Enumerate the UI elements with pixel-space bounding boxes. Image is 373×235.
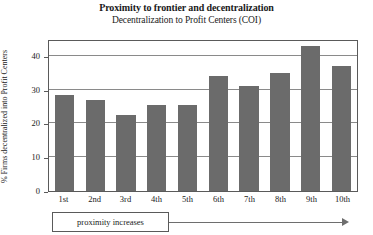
bar-slot [295, 41, 326, 191]
y-tick-mark [44, 57, 48, 58]
proximity-annotation-box: proximity increases [52, 212, 169, 232]
bar [270, 73, 289, 191]
x-axis-labels: 1st2nd3rd4th5th6th7th8th9th10th [48, 194, 358, 204]
bar-slot [172, 41, 203, 191]
x-tick-label: 2nd [79, 194, 110, 204]
x-tick-label: 5th [172, 194, 203, 204]
bar-chart: Proximity to frontier and decentralizati… [0, 0, 373, 235]
bar-series [49, 41, 357, 191]
y-tick-mark [44, 124, 48, 125]
bar [178, 105, 197, 191]
x-tick-label: 9th [296, 194, 327, 204]
y-tick-label: 0 [20, 186, 40, 196]
y-tick-label: 30 [20, 85, 40, 95]
x-tick-label: 6th [203, 194, 234, 204]
x-tick-label: 1st [48, 194, 79, 204]
x-tick-label: 8th [265, 194, 296, 204]
bar [86, 100, 105, 191]
x-tick-label: 3rd [110, 194, 141, 204]
proximity-annotation-label: proximity increases [77, 217, 144, 227]
bar [332, 66, 351, 191]
bar-slot [203, 41, 234, 191]
chart-subtitle: Decentralization to Profit Centers (COI) [0, 15, 373, 25]
plot-area [48, 40, 358, 192]
bar-slot [80, 41, 111, 191]
x-tick-label: 7th [234, 194, 265, 204]
bar [209, 76, 228, 191]
bar [147, 105, 166, 191]
y-tick-mark [44, 158, 48, 159]
bar [116, 115, 135, 191]
x-tick-label: 10th [327, 194, 358, 204]
bar-slot [141, 41, 172, 191]
bar-slot [234, 41, 265, 191]
bar-slot [265, 41, 296, 191]
y-tick-label: 10 [20, 152, 40, 162]
proximity-arrow-line [169, 222, 344, 223]
bar [301, 46, 320, 191]
y-tick-label: 20 [20, 118, 40, 128]
y-tick-mark [44, 91, 48, 92]
bar-slot [326, 41, 357, 191]
y-tick-mark [44, 192, 48, 193]
chart-title: Proximity to frontier and decentralizati… [0, 2, 373, 13]
bar-slot [49, 41, 80, 191]
bar [239, 86, 258, 191]
y-axis-title: % Firms decentralized into Profit Center… [0, 40, 12, 192]
right-arrow-icon [342, 218, 349, 226]
bar-slot [111, 41, 142, 191]
y-axis-title-text: % Firms decentralized into Profit Center… [1, 49, 10, 182]
y-tick-label: 40 [20, 51, 40, 61]
x-tick-label: 4th [141, 194, 172, 204]
bar [55, 95, 74, 191]
